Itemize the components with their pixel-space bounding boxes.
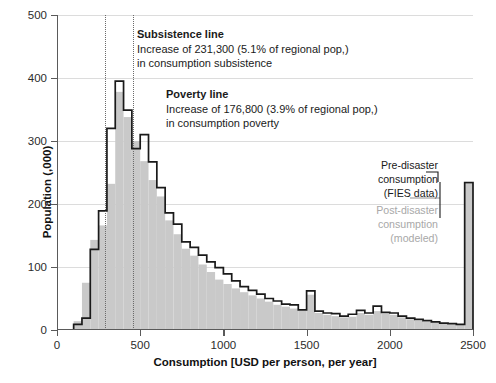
x-axis-spine (57, 329, 473, 330)
subsistence-annotation: Subsistence line Increase of 231,300 (5.… (137, 27, 349, 71)
chart-legend: Pre-disaster consumption (FIES data) Pos… (318, 158, 438, 245)
x-tick-2000 (390, 330, 391, 336)
legend-leader-0 (426, 172, 438, 182)
x-tick-label-0: 0 (54, 339, 60, 351)
poverty-line (133, 15, 134, 330)
poverty-annotation-line1: Increase of 176,800 (3.9% of regional po… (166, 102, 378, 117)
y-axis-spine (57, 15, 58, 330)
legend-post-disaster-line2: (modeled) (318, 231, 438, 245)
y-tick-label-0: 0 (41, 324, 47, 336)
x-tick-label-1500: 1500 (294, 339, 320, 351)
poverty-annotation-line2: in consumption poverty (166, 116, 378, 131)
x-axis-title: Consumption [USD per person, per year] (57, 356, 473, 368)
x-tick-0 (57, 330, 58, 336)
x-tick-1500 (307, 330, 308, 336)
poverty-annotation-heading: Poverty line (166, 87, 378, 102)
y-tick-label-400: 400 (28, 72, 47, 84)
poverty-annotation: Poverty line Increase of 176,800 (3.9% o… (166, 87, 378, 131)
x-tick-2500 (473, 330, 474, 336)
y-tick-label-300: 300 (28, 135, 47, 147)
subsistence-annotation-heading: Subsistence line (137, 27, 349, 42)
subsistence-line (105, 15, 106, 330)
x-tick-label-2000: 2000 (377, 339, 403, 351)
x-tick-500 (140, 330, 141, 336)
y-tick-label-500: 500 (28, 9, 47, 21)
x-tick-label-1000: 1000 (211, 339, 237, 351)
x-tick-label-500: 500 (131, 339, 150, 351)
y-axis-title: Population (,000) (41, 145, 53, 238)
subsistence-annotation-line1: Increase of 231,300 (5.1% of regional po… (137, 42, 349, 57)
subsistence-annotation-line2: in consumption subsistence (137, 56, 349, 71)
chart-figure: Population (,000) 0100200300400500 05001… (0, 0, 496, 383)
y-tick-label-100: 100 (28, 261, 47, 273)
y-tick-label-200: 200 (28, 198, 47, 210)
x-tick-1000 (223, 330, 224, 336)
x-tick-label-2500: 2500 (460, 339, 486, 351)
legend-leader-lines (318, 158, 448, 228)
